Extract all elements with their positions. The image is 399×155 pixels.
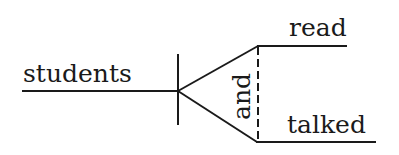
subject-word: students [23,59,132,88]
predicate-word-upper: read [289,13,347,42]
predicate-word-lower: talked [287,110,366,139]
sentence-diagram: students read talked and [0,0,399,155]
conjunction-word: and [227,73,256,120]
